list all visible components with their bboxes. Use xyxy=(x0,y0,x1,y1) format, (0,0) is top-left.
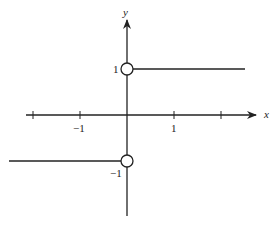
x-tick-label-neg1: −1 xyxy=(73,122,85,134)
y-tick-label-neg1: −1 xyxy=(110,167,122,179)
x-axis-label: x xyxy=(263,108,269,120)
open-point-upper xyxy=(121,63,133,75)
y-tick-label-pos1: 1 xyxy=(113,63,119,75)
step-function-graph: y x −1 1 1 −1 xyxy=(0,0,275,226)
x-tick-label-pos1: 1 xyxy=(171,122,177,134)
y-axis-label: y xyxy=(122,6,128,18)
open-point-lower xyxy=(121,155,133,167)
